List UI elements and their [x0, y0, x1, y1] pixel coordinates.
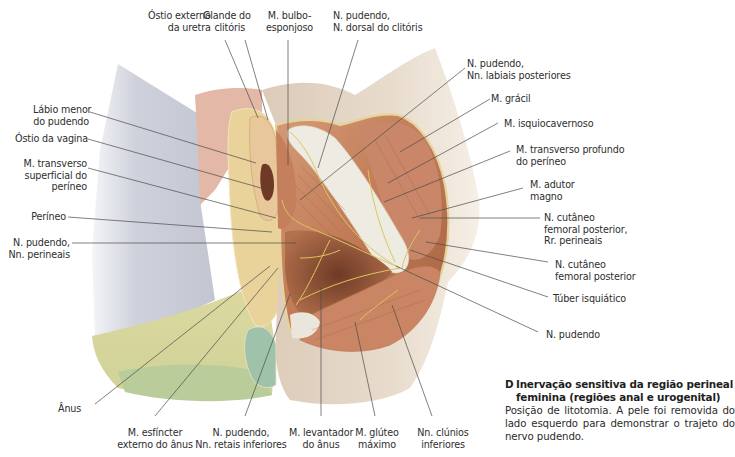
- label-m-esfincter-externo: M. esfíncter externo do ânus: [110, 427, 200, 450]
- label-m-levantador-anus: M. levantador do ânus: [289, 427, 353, 450]
- label-m-bulboesponjoso: M. bulbo- esponjoso: [266, 10, 313, 33]
- label-n-cutaneo-femoral-rr: N. cutâneo femoral posterior, Rr. perine…: [544, 212, 627, 247]
- label-glande-clitoris: Glande do clitóris: [203, 10, 251, 33]
- label-n-pudendo-dorsal-clitoris: N. pudendo, N. dorsal do clitóris: [333, 10, 422, 33]
- label-tuber-isquiatico: Túber isquiático: [553, 293, 626, 305]
- figure-letter: D: [505, 378, 516, 391]
- label-m-transverso-superficial: M. transverso superficial do períneo: [12, 158, 87, 193]
- label-labio-menor: Lábio menor do pudendo: [33, 104, 89, 127]
- label-m-gluteo-maximo: M. glúteo máximo: [355, 427, 399, 450]
- label-n-cutaneo-femoral: N. cutâneo femoral posterior: [555, 259, 636, 282]
- label-anus: Ânus: [58, 403, 81, 415]
- label-m-adutor-magno: M. adutor magno: [530, 179, 575, 202]
- label-n-pudendo-perineais: N. pudendo, Nn. perineais: [4, 237, 70, 260]
- label-m-isquiocavernoso: M. isquiocavernoso: [504, 118, 593, 130]
- label-n-pudendo-retais: N. pudendo, Nn. retais inferiores: [193, 427, 289, 450]
- figure-caption: DInervação sensitiva da região perineal …: [505, 378, 735, 444]
- label-ostio-vagina: Óstio da vagina: [3, 133, 88, 145]
- label-n-pudendo: N. pudendo: [546, 329, 600, 341]
- label-n-pudendo-labiais: N. pudendo, Nn. labiais posteriores: [467, 58, 571, 81]
- label-m-gracil: M. grácil: [491, 93, 531, 105]
- label-perineo: Períneo: [24, 211, 66, 223]
- label-m-transverso-profundo: M. transverso profundo do períneo: [516, 144, 624, 167]
- label-ostio-externo-uretra: Óstio externo da uretra: [148, 10, 211, 33]
- caption-title-text: Inervação sensitiva da região perineal f…: [516, 378, 733, 403]
- label-nn-clunios-inferiores: Nn. clúnios inferiores: [417, 427, 469, 450]
- caption-title: DInervação sensitiva da região perineal …: [505, 378, 735, 403]
- caption-description: Posição de litotomia. A pele foi removid…: [505, 404, 735, 444]
